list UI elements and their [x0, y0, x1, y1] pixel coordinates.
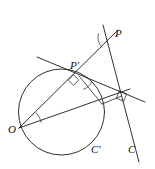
point-label-o: O [8, 124, 16, 135]
right-angle-at-Pp [68, 75, 79, 86]
line-through-P-and-C [103, 25, 139, 162]
point-label-p-prime: P′ [70, 60, 79, 71]
point-label-p: P [115, 28, 122, 39]
line-tangent-through-Pprime [37, 57, 145, 102]
inversion-diagram: O P P′ C C′ [0, 0, 155, 169]
angle-at-P [98, 33, 102, 47]
circle-label-c-prime: C′ [91, 144, 101, 155]
point-label-c: C [128, 144, 135, 155]
line-from-O-through-tangency-point [19, 89, 130, 128]
segment-tangency-point-to-foot [102, 96, 122, 104]
